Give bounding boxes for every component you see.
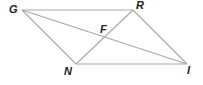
vertex-label-g: G [9,3,18,15]
vertex-label-r: R [136,0,144,11]
vertex-label-i: I [187,64,191,76]
intersection-label-f: F [100,23,107,35]
parallelogram-diagram: G R I N F [0,0,203,85]
vertex-label-n: N [64,65,73,77]
diagonal-rn [76,10,133,64]
side-ri [133,10,187,64]
side-ng [22,10,76,64]
